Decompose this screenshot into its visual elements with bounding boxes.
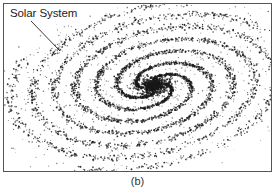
spiral-galaxy-illustration: [4, 4, 271, 171]
galaxy-figure-frame: Solar System: [3, 3, 272, 172]
figure-caption: (b): [0, 175, 275, 187]
galaxy-stars: [4, 4, 271, 171]
label-pointer-line: [31, 21, 60, 51]
solar-system-label: Solar System: [8, 7, 79, 20]
